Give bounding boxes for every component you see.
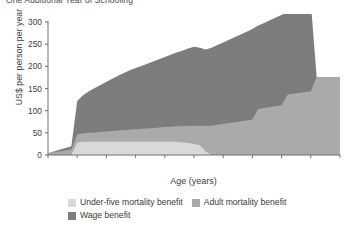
plot-area: US$ per person per year 0501001502002503… bbox=[0, 14, 355, 160]
svg-text:200: 200 bbox=[28, 61, 42, 71]
svg-text:150: 150 bbox=[28, 84, 42, 94]
x-axis-label: Age (years) bbox=[0, 176, 355, 186]
stacked-area-chart: 0501001502002503001419242934394449545964 bbox=[0, 14, 355, 160]
legend-swatch-adult-icon bbox=[192, 199, 200, 207]
svg-text:0: 0 bbox=[37, 150, 42, 160]
svg-text:100: 100 bbox=[28, 106, 42, 116]
chart-page: One Additional Year of Schooling US$ per… bbox=[0, 0, 355, 236]
y-axis-label: US$ per person per year bbox=[14, 2, 24, 112]
page-title: One Additional Year of Schooling bbox=[6, 0, 133, 5]
legend-label-under-five: Under-five mortality benefit bbox=[80, 198, 183, 207]
svg-text:300: 300 bbox=[28, 17, 42, 27]
legend-label-adult: Adult mortality benefit bbox=[204, 198, 287, 207]
chart-legend: Under-five mortality benefit Adult morta… bbox=[68, 196, 353, 222]
legend-item-under-five[interactable]: Under-five mortality benefit bbox=[68, 198, 183, 207]
legend-row-2: Wage benefit bbox=[68, 209, 353, 222]
legend-label-wage: Wage benefit bbox=[80, 211, 130, 220]
svg-text:50: 50 bbox=[33, 128, 43, 138]
legend-item-adult[interactable]: Adult mortality benefit bbox=[192, 198, 287, 207]
legend-swatch-under-five-icon bbox=[68, 199, 76, 207]
svg-text:250: 250 bbox=[28, 39, 42, 49]
legend-row-1: Under-five mortality benefit Adult morta… bbox=[68, 196, 353, 209]
legend-item-wage[interactable]: Wage benefit bbox=[68, 211, 130, 220]
legend-swatch-wage-icon bbox=[68, 212, 76, 220]
